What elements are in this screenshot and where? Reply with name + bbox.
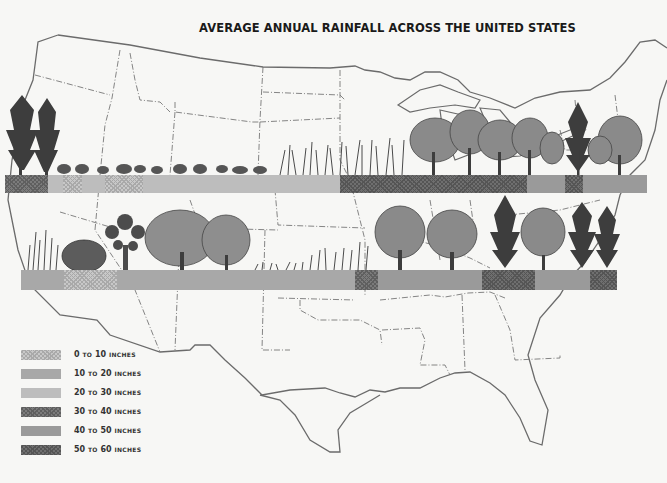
band-segment (21, 270, 64, 290)
band-segment (355, 270, 378, 290)
band-segment (590, 270, 617, 290)
legend-swatch (21, 426, 61, 436)
band-segment (105, 175, 143, 193)
deciduous-canopy-north (410, 110, 642, 164)
legend-swatch (21, 445, 61, 455)
vegetation-south (28, 195, 620, 272)
band-segment (82, 175, 105, 193)
band-segment (143, 175, 340, 193)
band-segment (535, 270, 590, 290)
legend-swatch (21, 407, 61, 417)
legend-item-10-20: 10 TO 20 INCHES (21, 364, 141, 383)
legend-swatch (21, 350, 61, 360)
rainfall-band-north (5, 175, 647, 193)
legend-swatch (21, 369, 61, 379)
legend: 0 TO 10 INCHES 10 TO 20 INCHES 20 TO 30 … (21, 345, 141, 459)
band-segment (583, 175, 647, 193)
deciduous-canopy-south (375, 206, 565, 258)
band-segment (48, 175, 63, 193)
band-segment (565, 175, 583, 193)
band-segment (482, 270, 535, 290)
band-segment (378, 270, 482, 290)
legend-swatch (21, 388, 61, 398)
legend-item-0-10: 0 TO 10 INCHES (21, 345, 141, 364)
band-segment (527, 175, 565, 193)
rainfall-band-south (21, 270, 617, 290)
band-segment (5, 175, 48, 193)
band-segment (340, 175, 527, 193)
band-segment (63, 175, 82, 193)
band-segment (64, 270, 117, 290)
band-segment (117, 270, 355, 290)
legend-item-30-40: 30 TO 40 INCHES (21, 402, 141, 421)
legend-item-50-60: 50 TO 60 INCHES (21, 440, 141, 459)
legend-item-40-50: 40 TO 50 INCHES (21, 421, 141, 440)
legend-item-20-30: 20 TO 30 INCHES (21, 383, 141, 402)
